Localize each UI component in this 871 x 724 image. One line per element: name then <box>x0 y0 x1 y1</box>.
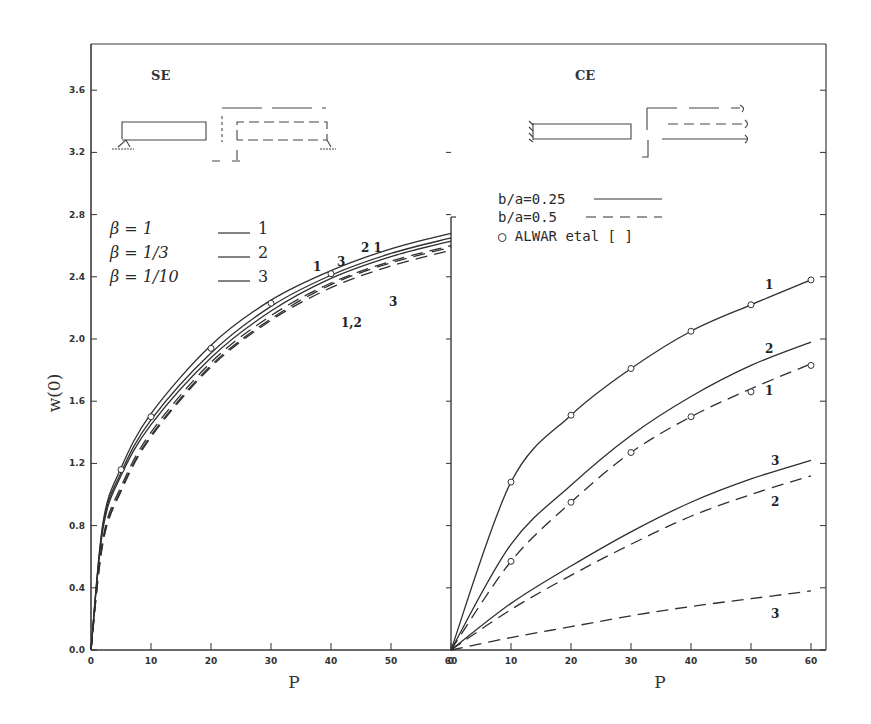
curve-b-a-0-25-1-10 <box>451 460 811 650</box>
x-tick-label: 0 <box>88 656 94 666</box>
y-tick-label: 1.6 <box>69 396 85 406</box>
alwar-marker-icon <box>208 345 214 351</box>
svg-text:1: 1 <box>258 219 268 238</box>
x-tick-label: 10 <box>145 656 158 666</box>
x-axis-label-right: P <box>654 672 665 692</box>
alwar-marker-icon <box>688 414 694 420</box>
svg-text:2: 2 <box>771 495 779 509</box>
curve-b-a-0-25-1 <box>451 280 811 650</box>
data-markers <box>118 271 814 565</box>
alwar-marker-icon <box>118 467 124 473</box>
y-tick-label: 1.2 <box>69 458 85 468</box>
legend-ba-025: b/a=0.25 <box>498 191 565 207</box>
legend-beta-1-10: β = 1/10 <box>109 267 179 286</box>
y-tick-label: 2.4 <box>69 272 85 282</box>
figure: 0.00.40.81.21.62.02.42.83.23.6 001010202… <box>0 0 871 724</box>
y-axis-label: w(0) <box>44 374 64 413</box>
x-tick-label: 40 <box>325 656 338 666</box>
svg-text:1: 1 <box>765 278 773 292</box>
se-schematic-icon <box>112 108 336 161</box>
se-legend: β = 1 1 β = 1/3 2 β = 1/10 3 <box>109 219 268 286</box>
curve-b-a-0-5-1-3 <box>451 476 811 650</box>
alwar-marker-icon <box>628 450 634 456</box>
x-axis-label-left: P <box>288 672 299 692</box>
svg-text:1: 1 <box>313 260 321 274</box>
x-tick-label: 60 <box>445 656 458 666</box>
alwar-marker-icon <box>508 558 514 564</box>
frame <box>91 44 826 650</box>
alwar-marker-icon <box>328 271 334 277</box>
svg-text:1: 1 <box>765 384 773 398</box>
x-tick-label: 50 <box>745 656 758 666</box>
alwar-marker-icon <box>808 362 814 368</box>
legend-ba-05: b/a=0.5 <box>498 209 557 225</box>
x-tick-label: 60 <box>805 656 818 666</box>
x-tick-label: 30 <box>625 656 638 666</box>
legend-beta-1: β = 1 <box>109 219 153 238</box>
alwar-marker-icon <box>808 277 814 283</box>
x-tick-label: 30 <box>265 656 278 666</box>
alwar-marker-icon <box>268 300 274 306</box>
y-tick-label: 0.8 <box>69 521 85 531</box>
svg-text:2 1: 2 1 <box>361 241 382 255</box>
x-tick-label: 50 <box>385 656 398 666</box>
x-tick-label: 20 <box>205 656 218 666</box>
alwar-marker-icon <box>688 328 694 334</box>
x-tick-label: 20 <box>565 656 578 666</box>
y-tick-label: 0.0 <box>69 645 85 655</box>
alwar-marker-icon <box>568 499 574 505</box>
svg-text:1,2: 1,2 <box>341 316 362 330</box>
alwar-marker-icon <box>748 389 754 395</box>
alwar-marker-icon <box>628 366 634 372</box>
y-tick-label: 2.0 <box>69 334 85 344</box>
svg-text:3: 3 <box>389 295 397 309</box>
legend-beta-1-3: β = 1/3 <box>109 243 169 262</box>
alwar-marker-icon <box>568 412 574 418</box>
ce-curve-labels: 1 2 1 3 2 3 <box>765 278 779 621</box>
y-axis-ticks: 0.00.40.81.21.62.02.42.83.23.6 <box>69 85 826 655</box>
svg-text:3: 3 <box>771 454 779 468</box>
curve-b-a-0-5-1-10 <box>451 591 811 650</box>
alwar-marker-icon <box>508 479 514 485</box>
svg-text:3: 3 <box>337 255 345 269</box>
y-tick-label: 3.6 <box>69 85 85 95</box>
panel-title-se: SE <box>151 68 170 83</box>
svg-text:2: 2 <box>765 342 773 356</box>
y-tick-label: 0.4 <box>69 583 85 593</box>
x-tick-label: 40 <box>685 656 698 666</box>
panel-title-ce: CE <box>575 68 595 83</box>
y-tick-label: 2.8 <box>69 210 85 220</box>
alwar-marker-icon <box>748 302 754 308</box>
x-tick-label: 10 <box>505 656 518 666</box>
svg-text:2: 2 <box>258 243 268 262</box>
y-tick-label: 3.2 <box>69 147 85 157</box>
alwar-marker-icon <box>148 414 154 420</box>
svg-text:3: 3 <box>258 267 268 286</box>
ce-schematic-icon <box>529 105 748 157</box>
legend-alwar: ○ ALWAR etal [ ] <box>498 228 633 244</box>
svg-text:3: 3 <box>771 607 779 621</box>
ce-legend: b/a=0.25 b/a=0.5 ○ ALWAR etal [ ] <box>498 191 662 244</box>
